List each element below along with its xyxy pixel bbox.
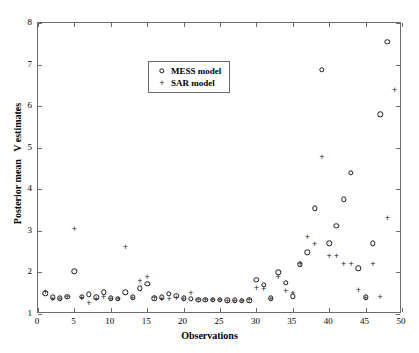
y-axis-tick-label: 8 [22, 17, 32, 27]
data-point-mess [341, 197, 346, 202]
x-axis-tick [38, 308, 39, 312]
data-point-sar [355, 286, 362, 293]
data-point-mess [254, 277, 259, 282]
y-axis-tick [396, 23, 400, 24]
data-point-mess [174, 293, 179, 298]
data-point-sar [49, 295, 56, 302]
y-axis-tick [38, 65, 42, 66]
y-axis-tick [38, 231, 42, 232]
x-axis-tick [402, 23, 403, 27]
data-point-mess [144, 281, 149, 286]
data-point-mess [385, 39, 390, 44]
x-axis-tick [329, 23, 330, 27]
y-axis-tick [396, 65, 400, 66]
x-axis-tick [74, 23, 75, 27]
x-axis-tick [184, 23, 185, 27]
data-point-mess [232, 298, 237, 303]
data-point-mess [64, 294, 69, 299]
chart-legend: MESS model SAR model [148, 61, 230, 93]
data-point-mess [137, 286, 142, 291]
data-point-sar [107, 296, 114, 303]
x-axis-tick-label: 45 [360, 316, 369, 326]
x-axis-tick-label: 50 [397, 316, 406, 326]
data-point-mess [239, 298, 244, 303]
y-axis-tick-label: 1 [22, 308, 32, 318]
data-point-sar [348, 261, 355, 268]
data-point-sar [202, 297, 209, 304]
data-point-mess [305, 250, 310, 255]
data-point-sar [311, 241, 318, 248]
data-point-mess [72, 268, 77, 273]
x-axis-tick [329, 308, 330, 312]
x-axis-tick [147, 23, 148, 27]
data-point-sar [217, 297, 224, 304]
data-point-sar [224, 297, 231, 304]
data-point-mess [152, 295, 157, 300]
y-axis-tick-label: 2 [22, 266, 32, 276]
data-point-sar [246, 297, 253, 304]
data-point-sar [158, 296, 165, 303]
data-point-mess [115, 296, 120, 301]
data-point-mess [188, 296, 193, 301]
x-axis-tick [184, 308, 185, 312]
x-axis-tick-label: 35 [287, 316, 296, 326]
data-point-mess [130, 295, 135, 300]
x-axis-tick [293, 308, 294, 312]
data-point-sar [377, 294, 384, 301]
data-point-mess [50, 295, 55, 300]
data-point-sar [326, 252, 333, 259]
x-axis-tick-label: 25 [215, 316, 224, 326]
data-point-mess [166, 291, 171, 296]
data-point-sar [56, 296, 63, 303]
y-axis-tick [396, 189, 400, 190]
data-point-mess [108, 295, 113, 300]
data-point-sar [122, 243, 129, 250]
y-axis-tick [396, 106, 400, 107]
x-axis-tick [256, 308, 257, 312]
data-point-mess [276, 270, 281, 275]
data-point-mess [261, 282, 266, 287]
data-point-sar [173, 295, 180, 302]
y-axis-tick-label: 4 [22, 183, 32, 193]
y-axis-tick-label: 7 [22, 59, 32, 69]
data-point-mess [326, 241, 331, 246]
y-axis-tick [396, 148, 400, 149]
data-point-sar [85, 300, 92, 307]
data-point-sar [275, 274, 282, 281]
data-point-sar [136, 277, 143, 284]
y-axis-tick [396, 272, 400, 273]
y-axis-tick [38, 314, 42, 315]
data-point-mess [312, 206, 317, 211]
data-point-sar [115, 296, 122, 303]
y-axis-title: Posterior mean V estimates [12, 69, 23, 259]
data-point-sar [231, 297, 238, 304]
y-axis-tick [38, 148, 42, 149]
data-point-sar [151, 295, 158, 302]
x-axis-tick [74, 308, 75, 312]
y-axis-tick-label: 5 [22, 142, 32, 152]
data-point-sar [362, 295, 369, 302]
data-point-mess [94, 295, 99, 300]
x-axis-tick-label: 40 [324, 316, 333, 326]
y-axis-tick [38, 189, 42, 190]
data-point-mess [43, 291, 48, 296]
y-axis-tick [38, 23, 42, 24]
data-point-mess [203, 297, 208, 302]
data-point-mess [210, 297, 215, 302]
x-axis-tick [402, 308, 403, 312]
data-point-mess [370, 241, 375, 246]
data-point-sar [93, 296, 100, 303]
data-point-mess [123, 290, 128, 295]
data-point-mess [283, 280, 288, 285]
data-point-sar [180, 296, 187, 303]
data-point-sar [267, 295, 274, 302]
x-axis-tick-label: 0 [35, 316, 40, 326]
data-point-sar [333, 252, 340, 259]
x-axis-tick [111, 308, 112, 312]
y-axis-tick-label: 3 [22, 225, 32, 235]
y-axis-tick [38, 272, 42, 273]
x-axis-tick-label: 10 [105, 316, 114, 326]
data-point-mess [319, 67, 324, 72]
data-point-mess [181, 295, 186, 300]
y-axis-tick [396, 314, 400, 315]
